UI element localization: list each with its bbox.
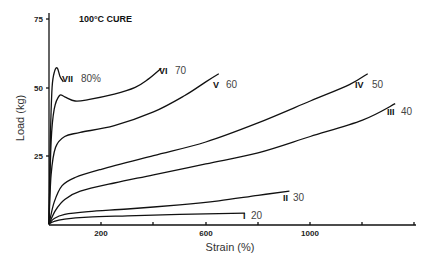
curve-pct-vii: 80% [81,73,101,84]
curves [49,68,395,224]
curve-vi [49,68,161,224]
y-tick-label-25: 25 [34,152,43,161]
curve-pct-vi: 70 [175,65,187,76]
x-axis-title: Strain (%) [206,241,255,253]
curve-label-i: I [243,211,246,221]
curve-pct-iv: 50 [372,79,384,90]
y-axis-title: Load (kg) [14,95,26,141]
y-tick-label-50: 50 [34,84,43,93]
curve-label-iii: III [387,107,395,117]
curve-label-ii: II [283,193,288,203]
y-tick-label-75: 75 [34,15,43,24]
curve-pct-v: 60 [226,79,238,90]
curve-label-vii: VII [62,74,73,84]
curve-label-iv: IV [355,80,364,90]
chart-title: 100°C CURE [79,14,132,24]
curve-label-vi: VI [159,66,168,76]
curve-iii [49,104,395,224]
curve-label-v: V [213,80,219,90]
curve-v [49,74,219,224]
curve-i [49,213,245,224]
x-tick-label-200: 200 [94,229,108,238]
load-strain-chart: 75 50 25 200 600 1000 Strain (%) Load (k… [0,0,428,265]
x-tick-label-1000: 1000 [301,229,319,238]
x-tick-label-600: 600 [199,229,213,238]
curve-pct-iii: 40 [401,106,413,117]
curve-pct-ii: 30 [293,192,305,203]
curve-pct-i: 20 [251,210,263,221]
